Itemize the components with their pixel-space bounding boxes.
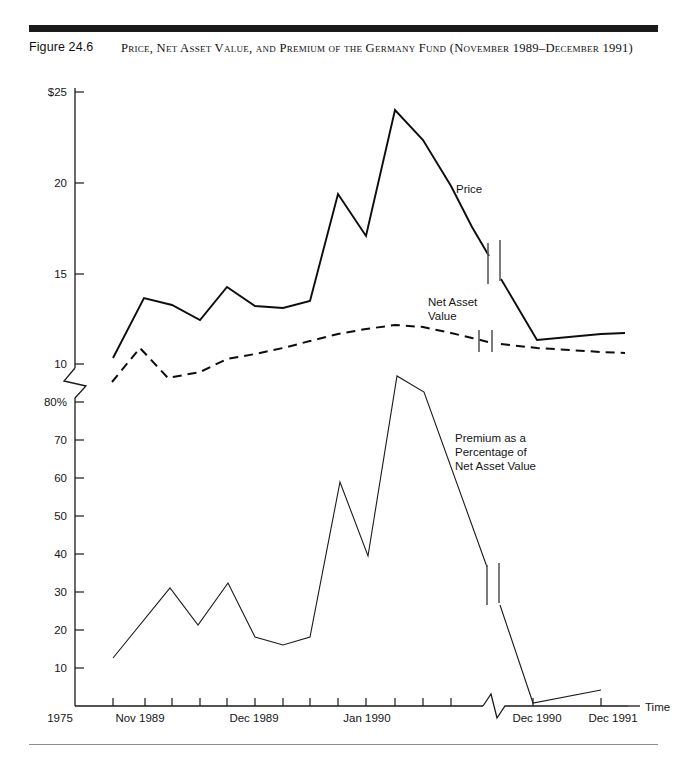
nav-line-right bbox=[501, 344, 625, 353]
lower-tick-label-80: 80% bbox=[44, 396, 67, 408]
series-premium: Premium as a Percentage of Net Asset Val… bbox=[113, 376, 601, 703]
x-tick-label-dec-1989: Dec 1989 bbox=[229, 712, 278, 724]
premium-series-label-line3: Net Asset Value bbox=[455, 460, 536, 472]
upper-tick-label-25: $25 bbox=[48, 86, 67, 98]
x-tick-label-dec-1990: Dec 1990 bbox=[512, 712, 561, 724]
lower-tick-label-40: 40 bbox=[54, 548, 67, 560]
lower-tick-label-30: 30 bbox=[54, 586, 67, 598]
figure-page: Figure 24.6 Price, Net Asset Value, and … bbox=[0, 0, 681, 768]
lower-tick-label-10: 10 bbox=[54, 662, 67, 674]
price-series-label: Price bbox=[456, 183, 482, 195]
footer-rule bbox=[29, 744, 658, 745]
premium-series-label-line1: Premium as a bbox=[455, 432, 527, 444]
y-axis-break-mark bbox=[64, 368, 86, 398]
premium-series-label-line2: Percentage of bbox=[455, 446, 527, 458]
x-axis-title: Time bbox=[645, 701, 670, 713]
upper-tick-label-10: 10 bbox=[54, 358, 67, 370]
x-tick-label-dec-1991: Dec 1991 bbox=[588, 712, 637, 724]
lower-tick-label-70: 70 bbox=[54, 434, 67, 446]
nav-line-left bbox=[112, 325, 488, 382]
lower-tick-label-60: 60 bbox=[54, 472, 67, 484]
premium-line-right bbox=[500, 605, 601, 703]
lower-tick-label-20: 20 bbox=[54, 624, 67, 636]
lower-tick-label-50: 50 bbox=[54, 510, 67, 522]
upper-tick-label-20: 20 bbox=[54, 177, 67, 189]
x-tick-label-nov-1989: Nov 1989 bbox=[115, 712, 164, 724]
x-tick-label-jan-1990: Jan 1990 bbox=[343, 712, 390, 724]
upper-y-axis: $25 20 15 10 bbox=[48, 86, 86, 398]
price-line-right bbox=[501, 279, 625, 340]
lower-y-axis: 80% 70 60 50 40 30 20 10 bbox=[44, 396, 84, 706]
nav-series-label-line1: Net Asset bbox=[428, 296, 478, 308]
nav-series-label-line2: Value bbox=[428, 310, 457, 322]
upper-tick-label-15: 15 bbox=[54, 268, 67, 280]
premium-line-left bbox=[113, 376, 487, 658]
series-price: Price bbox=[113, 110, 625, 358]
x-tick-label-1975: 1975 bbox=[47, 712, 73, 724]
chart-canvas: $25 20 15 10 80% 70 60 50 40 30 20 10 bbox=[0, 0, 681, 768]
x-axis: 1975 Nov 1989 Dec 1989 Jan 1990 Dec 1990… bbox=[47, 694, 670, 724]
